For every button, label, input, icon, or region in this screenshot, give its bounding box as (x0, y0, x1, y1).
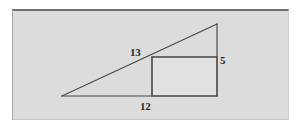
hypotenuse-label: 13 (130, 46, 141, 58)
figure-root: 13 5 12 (0, 0, 301, 131)
geometry-diagram: 13 5 12 (0, 0, 301, 131)
vertical-right-label: 5 (220, 54, 226, 66)
inscribed-rectangle (152, 57, 217, 96)
base-label: 12 (140, 100, 151, 112)
